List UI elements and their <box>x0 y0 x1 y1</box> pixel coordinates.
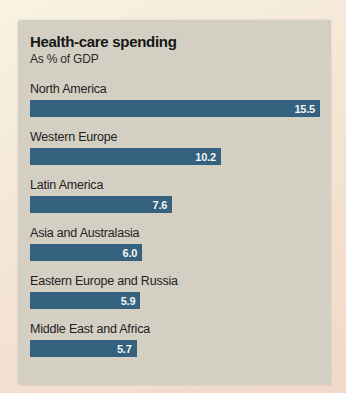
bar: 7.6 <box>30 196 172 213</box>
category-label: North America <box>30 82 320 97</box>
value-label: 6.0 <box>123 247 138 259</box>
category-label: Asia and Australasia <box>30 226 320 241</box>
scan-background: Health-care spending As % of GDP North A… <box>0 0 346 393</box>
bar: 15.5 <box>30 100 320 117</box>
value-label: 7.6 <box>152 199 167 211</box>
value-label: 5.7 <box>117 343 132 355</box>
chart-title: Health-care spending <box>30 33 320 51</box>
bar-row: Eastern Europe and Russia5.9 <box>30 274 320 309</box>
bar-row: Asia and Australasia6.0 <box>30 226 320 261</box>
bar-row: Western Europe10.2 <box>30 130 320 165</box>
category-label: Eastern Europe and Russia <box>30 274 320 289</box>
chart-card: Health-care spending As % of GDP North A… <box>18 20 331 385</box>
chart-subtitle: As % of GDP <box>30 52 320 66</box>
category-label: Latin America <box>30 178 320 193</box>
bar-row: Middle East and Africa5.7 <box>30 322 320 357</box>
category-label: Middle East and Africa <box>30 322 320 337</box>
bar-chart: North America15.5Western Europe10.2Latin… <box>30 82 320 357</box>
bar: 10.2 <box>30 148 221 165</box>
category-label: Western Europe <box>30 130 320 145</box>
value-label: 15.5 <box>294 103 315 115</box>
bar: 6.0 <box>30 244 142 261</box>
value-label: 10.2 <box>195 151 216 163</box>
bar-row: Latin America7.6 <box>30 178 320 213</box>
value-label: 5.9 <box>121 295 136 307</box>
bar: 5.7 <box>30 340 137 357</box>
bar: 5.9 <box>30 292 140 309</box>
bar-row: North America15.5 <box>30 82 320 117</box>
